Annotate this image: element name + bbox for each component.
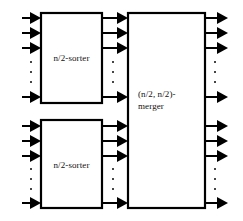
block-merger: (n/2, n/2)-merger (128, 13, 205, 208)
ellipsis-dot-0 (214, 61, 216, 63)
block-label-line: merger (138, 101, 164, 111)
arrow-head (117, 91, 128, 103)
arrow-inputs-bottom-3 (22, 197, 41, 209)
arrow-outputs-top-0 (205, 12, 228, 24)
block-bottom-sorter: n/2-sorter (41, 120, 102, 208)
arrow-head (217, 42, 228, 54)
arrow-head (217, 91, 228, 103)
arrow-head (217, 12, 228, 24)
wire-group-outputs-top (205, 12, 228, 103)
arrow-head (217, 150, 228, 162)
arrow-inputs-top-2 (22, 42, 41, 54)
arrow-outputs-bottom-2 (205, 150, 228, 162)
vertical-ellipsis-icon-bottom-sorter-to-merger (112, 168, 114, 190)
arrow-bottom-sorter-to-merger-0 (102, 120, 128, 132)
arrow-inputs-bottom-2 (22, 150, 41, 162)
ellipsis-dot-1 (30, 71, 32, 73)
arrow-head (217, 120, 228, 132)
ellipsis-dot-0 (30, 61, 32, 63)
arrow-outputs-top-2 (205, 42, 228, 54)
arrow-head (117, 27, 128, 39)
arrow-head (30, 42, 41, 54)
block-top-sorter: n/2-sorter (41, 13, 102, 103)
arrow-bottom-sorter-to-merger-3 (102, 197, 128, 209)
arrow-head (30, 135, 41, 147)
arrow-bottom-sorter-to-merger-2 (102, 150, 128, 162)
arrow-top-sorter-to-merger-2 (102, 42, 128, 54)
arrow-head (30, 91, 41, 103)
arrow-head (217, 197, 228, 209)
block-diagram-figure: n/2-sortern/2-sorter(n/2, n/2)-merger (0, 0, 243, 221)
ellipsis-dot-0 (30, 168, 32, 170)
ellipsis-dot-2 (214, 188, 216, 190)
wire-group-inputs-top (22, 12, 41, 103)
vertical-ellipsis-icon-top-sorter-to-merger (112, 61, 114, 83)
arrow-top-sorter-to-merger-0 (102, 12, 128, 24)
arrow-head (30, 120, 41, 132)
wire-group-inputs-bottom (22, 120, 41, 209)
arrow-outputs-top-3 (205, 91, 228, 103)
ellipsis-dot-1 (214, 178, 216, 180)
wire-group-top-sorter-to-merger (102, 12, 128, 103)
ellipsis-dot-2 (30, 81, 32, 83)
ellipsis-dot-0 (112, 61, 114, 63)
ellipsis-dot-2 (30, 188, 32, 190)
block-label-line: n/2-sorter (54, 160, 90, 170)
ellipsis-dot-1 (112, 178, 114, 180)
wire-group-bottom-sorter-to-merger (102, 120, 128, 209)
block-label-bottom-sorter: n/2-sorter (54, 160, 90, 170)
arrow-head (117, 42, 128, 54)
arrow-top-sorter-to-merger-1 (102, 27, 128, 39)
ellipsis-dot-0 (112, 168, 114, 170)
arrow-inputs-top-3 (22, 91, 41, 103)
ellipsis-dot-1 (30, 178, 32, 180)
ellipsis-dot-2 (112, 188, 114, 190)
arrow-inputs-top-0 (22, 12, 41, 24)
ellipsis-dot-2 (214, 81, 216, 83)
vertical-ellipsis-icon-outputs-top (214, 61, 216, 83)
ellipsis-dot-2 (112, 81, 114, 83)
arrow-outputs-bottom-3 (205, 197, 228, 209)
arrow-head (30, 12, 41, 24)
wire-group-outputs-bottom (205, 120, 228, 209)
block-label-line: n/2-sorter (54, 53, 90, 63)
ellipsis-dot-0 (214, 168, 216, 170)
arrow-inputs-top-1 (22, 27, 41, 39)
arrow-head (30, 27, 41, 39)
arrow-head (117, 12, 128, 24)
block-label-line: (n/2, n/2)- (138, 89, 176, 99)
arrow-head (30, 150, 41, 162)
arrow-outputs-top-1 (205, 27, 228, 39)
vertical-ellipsis-icon-outputs-bottom (214, 168, 216, 190)
arrow-head (117, 197, 128, 209)
ellipsis-dot-1 (214, 71, 216, 73)
vertical-ellipsis-icon-inputs-bottom (30, 168, 32, 190)
block-label-top-sorter: n/2-sorter (54, 53, 90, 63)
arrow-top-sorter-to-merger-3 (102, 91, 128, 103)
arrow-head (217, 27, 228, 39)
arrow-outputs-bottom-1 (205, 135, 228, 147)
arrow-head (117, 120, 128, 132)
arrow-head (117, 150, 128, 162)
arrow-inputs-bottom-1 (22, 135, 41, 147)
arrow-head (117, 135, 128, 147)
arrow-head (30, 197, 41, 209)
arrow-head (217, 135, 228, 147)
vertical-ellipsis-icon-inputs-top (30, 61, 32, 83)
arrow-inputs-bottom-0 (22, 120, 41, 132)
ellipsis-dot-1 (112, 71, 114, 73)
diagram-canvas: n/2-sortern/2-sorter(n/2, n/2)-merger (0, 0, 243, 221)
arrow-bottom-sorter-to-merger-1 (102, 135, 128, 147)
arrow-outputs-bottom-0 (205, 120, 228, 132)
